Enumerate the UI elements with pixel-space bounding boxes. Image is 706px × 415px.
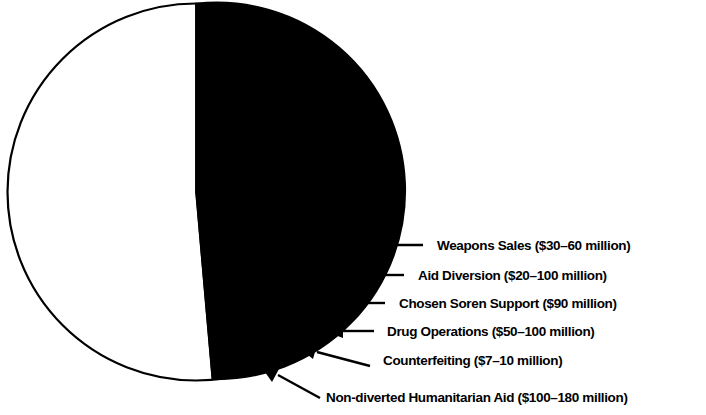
callout-label-weapons-sales: Weapons Sales ($30–60 million) — [437, 239, 630, 253]
pie-chart-figure: Exports $1.2 billion Additional Support … — [0, 0, 706, 415]
callout-label-chosen-soren-support: Chosen Soren Support ($90 million) — [399, 297, 617, 311]
callout-label-counterfeiting: Counterfeiting ($7–10 million) — [383, 354, 562, 368]
callout-label-aid-diversion: Aid Diversion ($20–100 million) — [418, 269, 607, 283]
callout-arrow-counterfeiting — [298, 345, 370, 366]
callout-arrow-non-diverted-humanitarian-aid — [260, 365, 320, 398]
pie-slice-exports — [196, 2, 405, 379]
pie-chart-graphic — [0, 0, 706, 415]
callout-label-drug-operations: Drug Operations ($50–100 million) — [387, 325, 595, 339]
callout-label-non-diverted-humanitarian-aid: Non-diverted Humanitarian Aid ($100–180 … — [326, 391, 628, 405]
